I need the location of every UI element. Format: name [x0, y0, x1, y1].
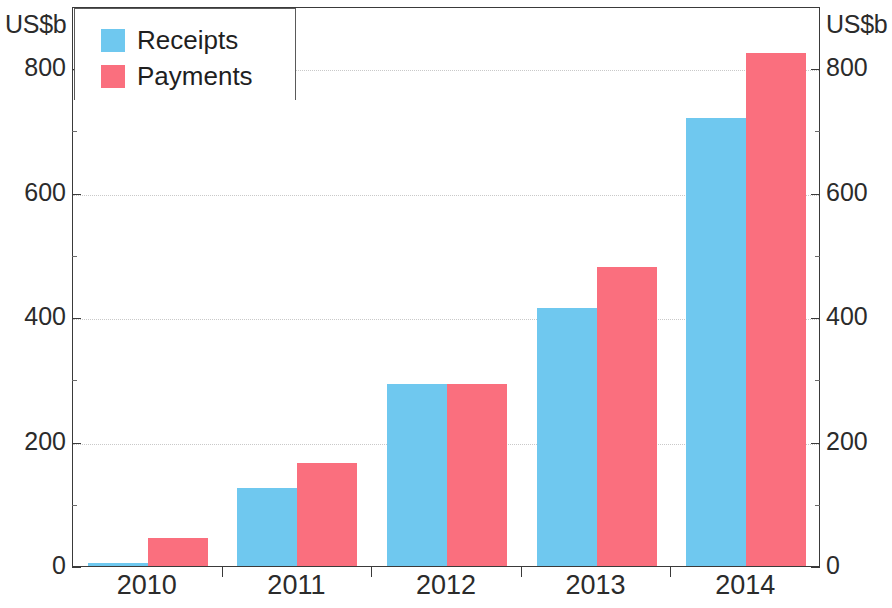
y-axis-left-tick-label-200: 200: [24, 429, 66, 454]
x-axis-tick-label-2011: 2011: [222, 572, 372, 599]
y-axis-right-minor-tick-700: [815, 131, 820, 132]
legend-item-payments: Payments: [101, 63, 253, 89]
y-axis-right-minor-tick-100: [815, 505, 820, 506]
bar-payments-2014: [746, 53, 806, 566]
legend-label-payments: Payments: [137, 63, 253, 89]
bar-receipts-2011: [237, 488, 297, 566]
bar-payments-2011: [297, 463, 357, 566]
x-axis-tick-label-2012: 2012: [371, 572, 521, 599]
y-axis-left-minor-tick-700: [72, 131, 77, 132]
y-axis-left-unit-label: US$b: [5, 12, 66, 37]
y-axis-left-tick-mark-400: [72, 318, 81, 319]
y-axis-left-tick-label-0: 0: [52, 553, 66, 578]
y-axis-right-tick-mark-200: [811, 443, 820, 444]
y-axis-left-minor-tick-300: [72, 380, 77, 381]
bar-chart: US$b US$b 002002004004006006008008002010…: [0, 0, 892, 608]
y-axis-right-tick-label-600: 600: [826, 180, 868, 205]
bar-payments-2013: [597, 267, 657, 566]
y-axis-left-tick-mark-600: [72, 194, 81, 195]
y-axis-right-minor-tick-500: [815, 256, 820, 257]
legend: ReceiptsPayments: [74, 8, 296, 100]
y-axis-left-tick-mark-200: [72, 443, 81, 444]
x-axis-tick-label-2013: 2013: [521, 572, 671, 599]
bar-payments-2010: [148, 538, 208, 566]
y-axis-right-tick-mark-600: [811, 194, 820, 195]
y-axis-right-tick-label-0: 0: [826, 553, 840, 578]
y-axis-left-tick-label-800: 800: [24, 55, 66, 80]
y-axis-right-tick-label-800: 800: [826, 55, 868, 80]
x-axis-tick-label-2010: 2010: [72, 572, 222, 599]
y-axis-right-tick-label-200: 200: [826, 429, 868, 454]
y-axis-right-tick-label-400: 400: [826, 304, 868, 329]
bar-payments-2012: [447, 384, 507, 566]
legend-swatch-payments: [101, 65, 125, 88]
y-axis-right-tick-mark-0: [811, 567, 820, 568]
bar-receipts-2012: [387, 384, 447, 566]
y-axis-right-minor-tick-300: [815, 380, 820, 381]
x-axis-tick-label-2014: 2014: [670, 572, 820, 599]
bar-receipts-2013: [537, 308, 597, 566]
y-axis-left-tick-label-600: 600: [24, 180, 66, 205]
y-axis-right-tick-mark-400: [811, 318, 820, 319]
y-axis-left-minor-tick-100: [72, 505, 77, 506]
y-axis-right-unit-label: US$b: [826, 12, 887, 37]
y-axis-left-tick-mark-0: [72, 567, 81, 568]
legend-item-receipts: Receipts: [101, 27, 238, 53]
bar-receipts-2010: [88, 563, 148, 566]
legend-swatch-receipts: [101, 29, 125, 52]
y-axis-left-tick-label-400: 400: [24, 304, 66, 329]
legend-label-receipts: Receipts: [137, 27, 238, 53]
y-axis-right-tick-mark-800: [811, 69, 820, 70]
y-axis-left-minor-tick-500: [72, 256, 77, 257]
bar-receipts-2014: [686, 118, 746, 566]
